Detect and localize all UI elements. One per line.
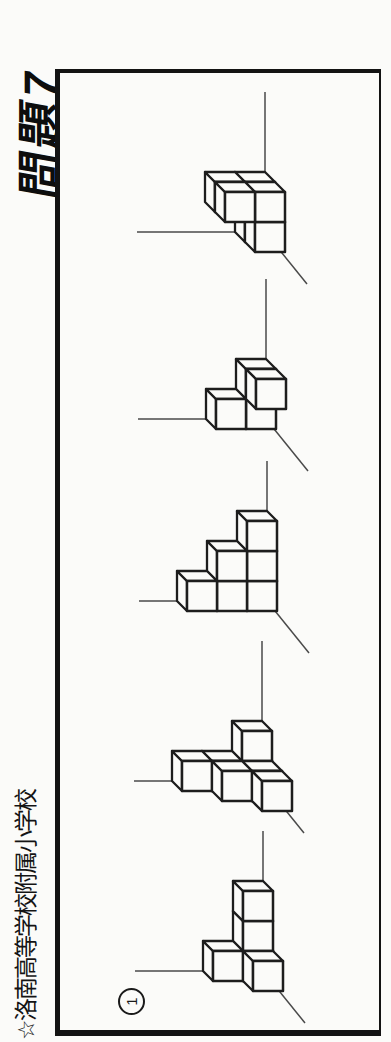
figure-2 xyxy=(134,641,304,833)
cube-face xyxy=(216,399,246,429)
figure-4 xyxy=(138,279,308,471)
figure-3 xyxy=(139,461,309,653)
school-name-label: ☆洛南高等学校附属小学校 xyxy=(7,790,41,1040)
cube-face xyxy=(213,951,243,981)
cube-face xyxy=(187,581,217,611)
cube-face xyxy=(222,771,252,801)
cube-figures-canvas xyxy=(60,73,379,1030)
cube-face xyxy=(242,731,272,761)
cube-face xyxy=(247,581,277,611)
cube-face xyxy=(243,891,273,921)
cube-face xyxy=(217,551,247,581)
cube-face xyxy=(225,192,255,222)
figure-5 xyxy=(137,92,307,284)
cube-face xyxy=(182,761,212,791)
cube-face xyxy=(255,192,285,222)
scanned-worksheet: ☆洛南高等学校附属小学校 問題7 1 xyxy=(0,0,391,1042)
worksheet-frame: 1 xyxy=(55,69,381,1036)
cube-face xyxy=(217,581,247,611)
cube-face xyxy=(247,551,277,581)
cube-face xyxy=(255,222,285,252)
cube-face xyxy=(243,921,273,951)
cube-face xyxy=(247,521,277,551)
cube-face xyxy=(253,961,283,991)
figure-1 xyxy=(135,831,305,1023)
cube-face xyxy=(256,379,286,409)
worksheet-page: ☆洛南高等学校附属小学校 問題7 1 xyxy=(0,0,391,1042)
cube-face xyxy=(262,781,292,811)
